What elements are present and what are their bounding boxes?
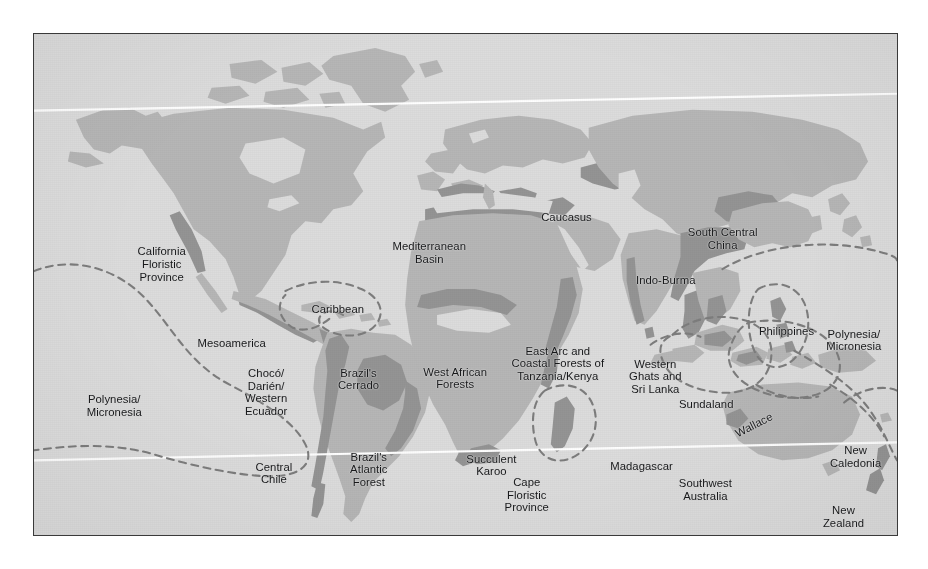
map-canvas: .land{fill:#b6b6b6;} .hot{fill:#949494;}… xyxy=(34,34,897,535)
world-map-figure: .land{fill:#b6b6b6;} .hot{fill:#949494;}… xyxy=(33,33,898,536)
